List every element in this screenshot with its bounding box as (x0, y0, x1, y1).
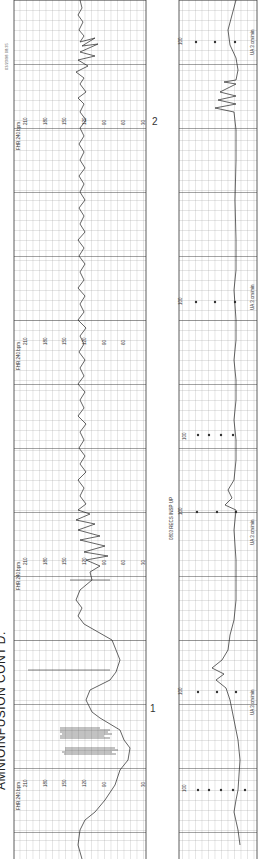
svg-text:90: 90 (102, 339, 107, 345)
svg-text:UA 3 cm/min: UA 3 cm/min (250, 284, 255, 310)
svg-text:60: 60 (121, 559, 126, 565)
svg-text:60: 60 (121, 119, 126, 125)
svg-text:90: 90 (102, 559, 107, 565)
svg-text:150: 150 (62, 779, 67, 787)
svg-text:30: 30 (141, 559, 146, 565)
svg-text:150: 150 (62, 557, 67, 565)
svg-text:30: 30 (141, 781, 146, 787)
svg-text:180: 180 (43, 557, 48, 565)
svg-text:UA 3 cm/min: UA 3 cm/min (250, 519, 255, 545)
svg-text:0803 RECS INSP UP: 0803 RECS INSP UP (169, 497, 174, 540)
svg-text:150: 150 (62, 337, 67, 345)
svg-text:120: 120 (82, 557, 87, 565)
fhr-panel: 210 180 150 120 90 60 30 210 180 150 120… (14, 0, 146, 859)
svg-text:30: 30 (141, 119, 146, 125)
svg-text:100: 100 (182, 432, 187, 440)
svg-text:90: 90 (102, 781, 107, 787)
svg-text:180: 180 (43, 779, 48, 787)
svg-text:150: 150 (62, 117, 67, 125)
segment-marker-2: 2 (152, 116, 158, 127)
svg-text:100: 100 (178, 37, 183, 45)
ua-panel: 100 100 100 100 100 100 0803 RECS INSP U… (169, 0, 257, 859)
svg-text:210: 210 (23, 557, 28, 565)
svg-text:90: 90 (102, 119, 107, 125)
svg-text:180: 180 (43, 337, 48, 345)
svg-text:120: 120 (82, 779, 87, 787)
svg-text:100: 100 (178, 507, 183, 515)
svg-text:210: 210 (23, 337, 28, 345)
svg-text:210: 210 (23, 117, 28, 125)
svg-text:210: 210 (23, 779, 28, 787)
svg-text:FHR 240 bpm: FHR 240 bpm (16, 562, 21, 590)
svg-text:FHR 240 bpm: FHR 240 bpm (16, 122, 21, 150)
svg-text:UA 3 cm/min: UA 3 cm/min (250, 29, 255, 55)
svg-text:FHR 240 bpm: FHR 240 bpm (16, 342, 21, 370)
segment-marker-1: 1 (150, 703, 156, 714)
svg-text:100: 100 (178, 297, 183, 305)
ctg-strip: 210 180 150 120 90 60 30 210 180 150 120… (0, 0, 265, 859)
svg-text:60: 60 (121, 339, 126, 345)
svg-text:UA 3 cm/min: UA 3 cm/min (250, 689, 255, 715)
svg-text:100: 100 (182, 784, 187, 792)
svg-text:180: 180 (43, 117, 48, 125)
svg-text:FHR 240 bpm: FHR 240 bpm (16, 782, 21, 810)
svg-text:100: 100 (178, 687, 183, 695)
